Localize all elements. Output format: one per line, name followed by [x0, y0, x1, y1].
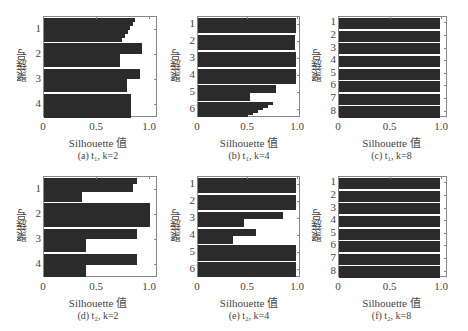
y-axis-label: 聚簇号 [309, 209, 325, 242]
y-tick-mark [444, 22, 447, 23]
silhouette-bar [198, 115, 248, 118]
silhouette-bar [339, 178, 440, 189]
cluster-label: 4 [326, 54, 336, 65]
x-axis-label: Silhouette 值 [220, 134, 278, 150]
cluster-bar-group [339, 254, 446, 265]
cluster-bar-group [44, 94, 156, 117]
cluster-label: 1 [185, 18, 195, 29]
silhouette-bar [198, 218, 244, 227]
silhouette-bar [44, 43, 142, 54]
silhouette-bar [339, 18, 440, 29]
plot-axes-2 [338, 16, 447, 117]
plot-axes-3 [43, 176, 157, 277]
cluster-label: 5 [326, 227, 336, 238]
cluster-label: 1 [185, 178, 195, 189]
cluster-label: 3 [326, 202, 336, 213]
x-tick-mark [96, 176, 97, 179]
y-axis-label: 聚簇号 [309, 49, 325, 82]
cluster-label: 3 [31, 233, 41, 244]
silhouette-bar [339, 191, 440, 202]
cluster-bar-group [339, 18, 446, 29]
silhouette-bar [339, 43, 440, 54]
cluster-label: 5 [185, 86, 195, 97]
cluster-bar-group [198, 178, 299, 193]
x-tick-mark [338, 176, 339, 179]
silhouette-bar [198, 262, 296, 277]
x-tick-mark [43, 176, 44, 179]
cluster-label: 3 [31, 73, 41, 84]
x-tick-mark [149, 16, 150, 19]
x-tick-label: 1.0 [434, 120, 448, 132]
y-tick-mark [154, 104, 157, 105]
plot-axes-1 [197, 16, 300, 117]
cluster-label: 2 [326, 29, 336, 40]
cluster-label: 4 [31, 98, 41, 109]
y-tick-mark [297, 269, 300, 270]
panel-caption: (b) t₁, k=4 [228, 150, 269, 161]
y-tick-mark [154, 214, 157, 215]
y-tick-mark [154, 239, 157, 240]
cluster-bar-group [198, 245, 299, 260]
silhouette-bar [44, 254, 137, 265]
y-tick-mark [444, 182, 447, 183]
x-axis-label: Silhouette 值 [69, 134, 127, 150]
cluster-bar-group [339, 43, 446, 54]
y-tick-mark [444, 233, 447, 234]
y-tick-mark [444, 73, 447, 74]
silhouette-bar [44, 37, 122, 41]
y-tick-mark [154, 264, 157, 265]
cluster-label: 2 [185, 35, 195, 46]
cluster-bar-group [198, 229, 299, 244]
y-tick-mark [297, 252, 300, 253]
cluster-label: 3 [185, 52, 195, 63]
y-tick-mark [297, 58, 300, 59]
silhouette-bar [198, 69, 296, 84]
y-tick-mark [444, 98, 447, 99]
cluster-bar-group [339, 178, 446, 189]
cluster-label: 7 [326, 92, 336, 103]
x-tick-label: 0.5 [383, 280, 397, 292]
x-tick-mark [96, 16, 97, 19]
silhouette-bar [339, 81, 440, 92]
cluster-label: 8 [326, 265, 336, 276]
plot-axes-4 [197, 176, 300, 277]
cluster-bar-group [339, 229, 446, 240]
y-tick-mark [444, 258, 447, 259]
silhouette-bar [339, 254, 440, 265]
silhouette-bar [339, 69, 440, 80]
cluster-bar-group [44, 18, 156, 41]
x-axis-label: Silhouette 值 [362, 134, 420, 150]
x-tick-label: 0 [194, 280, 200, 292]
y-tick-mark [444, 220, 447, 221]
y-tick-mark [444, 60, 447, 61]
x-tick-mark [43, 16, 44, 19]
x-tick-mark [390, 176, 391, 179]
y-tick-mark [444, 85, 447, 86]
cluster-label: 2 [185, 195, 195, 206]
silhouette-bar [44, 192, 82, 202]
y-tick-mark [444, 208, 447, 209]
y-axis-label: 聚簇号 [168, 209, 184, 242]
cluster-bar-group [339, 266, 446, 277]
cluster-label: 6 [326, 79, 336, 90]
x-tick-label: 0.5 [240, 280, 254, 292]
cluster-label: 6 [326, 239, 336, 250]
cluster-bar-group [339, 94, 446, 105]
y-tick-mark [444, 111, 447, 112]
silhouette-bar [44, 229, 137, 240]
y-tick-mark [444, 35, 447, 36]
x-tick-label: 1.0 [142, 280, 156, 292]
silhouette-bar [44, 54, 120, 67]
cluster-label: 2 [326, 189, 336, 200]
x-tick-mark [297, 16, 298, 19]
x-tick-mark [338, 16, 339, 19]
silhouette-bar [339, 216, 440, 227]
x-tick-mark [197, 16, 198, 19]
y-tick-mark [444, 48, 447, 49]
silhouette-bar [339, 203, 440, 214]
silhouette-bar [339, 229, 440, 240]
silhouette-bar [44, 239, 86, 252]
x-tick-label: 1.0 [142, 120, 156, 132]
x-tick-label: 0.5 [240, 120, 254, 132]
panel-caption: (a) t₁, k=2 [78, 150, 119, 161]
